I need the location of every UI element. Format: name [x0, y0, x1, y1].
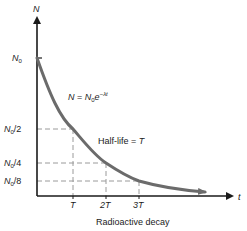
- x-tick-t: T: [70, 200, 76, 210]
- decay-equation: N = N0e−λt: [68, 92, 108, 102]
- x-axis-label: t: [238, 192, 241, 202]
- y-axis-label: N: [33, 4, 40, 14]
- y-tick-n0: N0: [12, 53, 22, 63]
- half-life-label: Half-life = T: [98, 136, 144, 146]
- x-tick-3t: 3T: [133, 200, 144, 210]
- x-tick-2t: 2T: [100, 200, 111, 210]
- figure-caption: Radioactive decay: [96, 217, 170, 227]
- y-tick-n0-eighth: N0/8: [4, 176, 21, 186]
- decay-curve: [37, 58, 205, 192]
- y-tick-n0-half: N0/2: [4, 124, 21, 134]
- y-tick-n0-quarter: N0/4: [4, 158, 21, 168]
- decay-diagram: [0, 0, 247, 231]
